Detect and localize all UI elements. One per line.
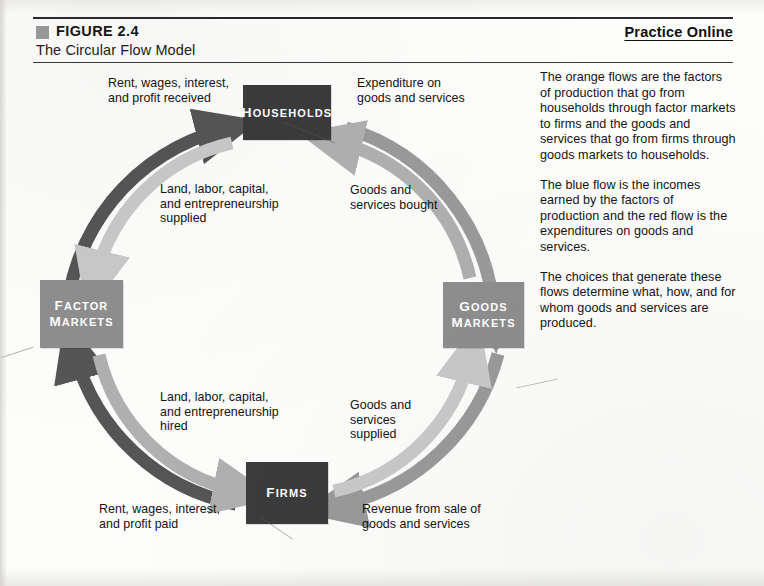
flow-label-revenue: Revenue from sale of goods and services	[362, 502, 532, 531]
figure-number: FIGURE 2.4	[56, 23, 139, 39]
flow-label-land-hired: Land, labor, capital, and entrepreneursh…	[160, 390, 328, 434]
caption-paragraph-2: The blue flow is the incomes earned by t…	[540, 178, 736, 256]
flow-label-rent-paid: Rent, wages, interest, and profit paid	[99, 502, 269, 531]
figure-title: The Circular Flow Model	[36, 42, 195, 58]
practice-online-link[interactable]: Practice Online	[624, 24, 733, 40]
flow-label-goods-bought: Goods and services bought	[350, 183, 490, 212]
node-firms-label: FIRMS	[266, 485, 307, 501]
flow-label-land-supplied: Land, labor, capital, and entrepreneursh…	[160, 182, 328, 226]
figure-page: FIGURE 2.4 The Circular Flow Model Pract…	[0, 0, 764, 586]
node-goods-markets[interactable]: GOODSMARKETS	[443, 282, 524, 348]
node-factor-markets-label: FACTORMARKETS	[49, 298, 113, 330]
caption-paragraph-3: The choices that generate these flows de…	[540, 270, 736, 332]
figure-marker-icon	[36, 26, 49, 39]
node-households-label: HOUSEHOLDS	[242, 105, 332, 121]
circular-flow-diagram: HOUSEHOLDS FACTORMARKETS GOODSMARKETS FI…	[0, 62, 540, 586]
flow-label-goods-supplied: Goods and services supplied	[350, 398, 480, 442]
node-factor-markets[interactable]: FACTORMARKETS	[40, 280, 123, 348]
caption-paragraph-1: The orange flows are the factors of prod…	[540, 70, 736, 164]
flow-label-rent-received: Rent, wages, interest, and profit receiv…	[108, 76, 268, 105]
caption-column: The orange flows are the factors of prod…	[540, 70, 736, 346]
header-top-rule	[33, 17, 733, 19]
node-goods-markets-label: GOODSMARKETS	[451, 299, 515, 331]
flow-label-expenditure: Expenditure on goods and services	[357, 76, 517, 105]
